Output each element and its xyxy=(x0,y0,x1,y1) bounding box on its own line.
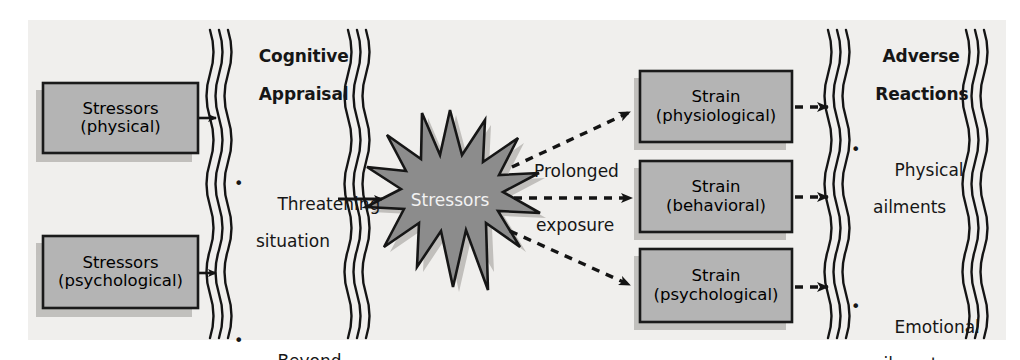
box-line-1: Stressors xyxy=(82,99,158,118)
bullet-line-2: ailments xyxy=(862,198,975,217)
prolonged-exposure-label-line-1: Prolonged xyxy=(534,162,619,180)
bullet-threatening-situation: Threatening situation xyxy=(234,176,356,288)
bullet-line-1: Physical xyxy=(894,160,963,180)
arrow-stressors-to-strain-physiological xyxy=(512,112,630,167)
box-line-2: (psychological) xyxy=(58,271,183,290)
cognitive-appraisal-header: Cognitive Appraisal xyxy=(232,28,352,123)
strain-box-physiological[interactable]: Strain (physiological) xyxy=(640,71,792,142)
bullet-line-1: Threatening xyxy=(277,194,380,214)
prolonged-exposure-label-line-2: exposure xyxy=(536,216,614,234)
bullet-line-1: Beyond xyxy=(277,351,341,360)
starburst-label: Stressors xyxy=(370,190,530,210)
strain-box-psychological[interactable]: Strain (psychological) xyxy=(640,249,792,322)
bullet-beyond-control: Beyond control xyxy=(234,333,356,360)
strain-box-behavioral[interactable]: Strain (behavioral) xyxy=(640,161,792,232)
strain-box-behavioral-label: Strain (behavioral) xyxy=(640,178,792,214)
diagram-canvas: Stressors (physical) Stressors (psycholo… xyxy=(0,0,1020,360)
cognitive-appraisal-bullets: Threatening situation Beyond control xyxy=(234,139,356,360)
box-line-1: Strain xyxy=(692,87,741,106)
box-line-2: (physiological) xyxy=(656,106,776,125)
box-line-2: (physical) xyxy=(80,117,161,136)
box-line-1: Stressors xyxy=(82,253,158,272)
box-line-1: Strain xyxy=(692,266,741,285)
bullet-emotional-ailments: Emotional ailments xyxy=(851,299,975,360)
bullet-physical-ailments: Physical ailments xyxy=(851,142,975,254)
stressor-box-psychological[interactable]: Stressors (psychological) xyxy=(43,236,198,308)
wavy-divider-right-a xyxy=(825,30,850,338)
bullet-line-2: ailments xyxy=(862,355,975,360)
strain-box-physiological-label: Strain (physiological) xyxy=(640,88,792,124)
header-line-2: Appraisal xyxy=(259,84,349,104)
stressor-box-physical[interactable]: Stressors (physical) xyxy=(43,83,198,153)
header-line-1: Adverse xyxy=(883,46,960,66)
box-line-2: (psychological) xyxy=(654,285,779,304)
stressor-box-physical-label: Stressors (physical) xyxy=(43,100,198,136)
strain-box-psychological-label: Strain (psychological) xyxy=(640,267,792,303)
box-line-1: Strain xyxy=(692,177,741,196)
header-line-1: Cognitive xyxy=(259,46,349,66)
bullet-line-2: situation xyxy=(245,232,356,251)
wavy-divider-left-a xyxy=(207,30,232,338)
bullet-line-1: Emotional xyxy=(894,317,979,337)
stressor-box-psychological-label: Stressors (psychological) xyxy=(43,254,198,290)
arrow-stressors-to-strain-psychological xyxy=(510,231,630,285)
adverse-reactions-bullets: Physical ailments Emotional ailments Imp… xyxy=(851,105,975,360)
box-line-2: (behavioral) xyxy=(666,196,766,215)
header-line-2: Reactions xyxy=(875,84,968,104)
